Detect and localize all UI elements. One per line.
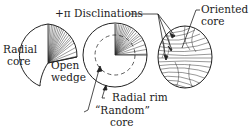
random-core-label-line2: core: [110, 117, 133, 128]
radial-core-label-line1: Radial: [3, 44, 37, 55]
oriented-core-shape: [155, 26, 214, 92]
radial-rim-label: Radial rim: [112, 92, 168, 103]
open-wedge-label-line2: wedge: [51, 72, 86, 83]
radial-rim-pointer: [102, 85, 107, 98]
oriented-core-label-line2: core: [201, 16, 224, 27]
disclinations-label: +π Disclinations: [55, 8, 143, 19]
oriented-core-label-line1: Oriented: [201, 4, 248, 15]
random-core-label-line1: “Random”: [95, 105, 150, 116]
random-core-shape: [83, 20, 149, 87]
radial-core-label-line2: core: [7, 56, 30, 67]
open-wedge-label-line1: Open: [51, 60, 79, 71]
disclination-diagram: +π Disclinations Oriented core Radial co…: [0, 0, 251, 132]
